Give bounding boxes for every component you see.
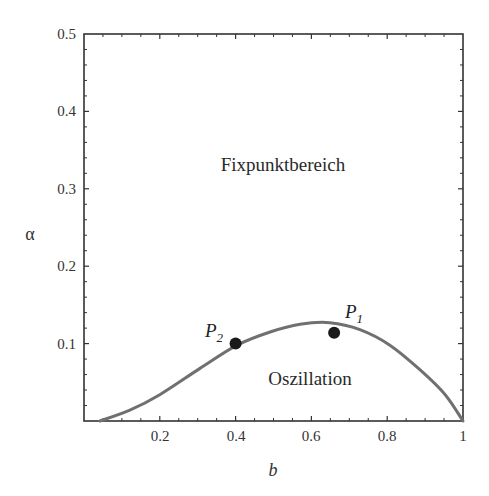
region-label-oscillation: Oszillation: [268, 368, 352, 389]
x-tick-0.4: 0.4: [227, 428, 246, 444]
point-p1-label: P1: [344, 301, 363, 326]
x-tick-0.8: 0.8: [378, 428, 397, 444]
x-tick-0.2: 0.2: [151, 428, 170, 444]
y-tick-0.5: 0.5: [57, 26, 76, 42]
minor-ticks: [84, 34, 463, 421]
x-tick-0.6: 0.6: [302, 428, 321, 444]
chart: 0.1 0.2 0.3 0.4 0.5 0.2 0.4 0.6 0.8 1 α …: [0, 0, 489, 496]
point-p1-marker: [328, 327, 340, 339]
y-tick-0.2: 0.2: [57, 258, 76, 274]
x-tick-1: 1: [459, 428, 467, 444]
y-tick-0.3: 0.3: [57, 181, 76, 197]
point-p2-marker: [230, 338, 242, 350]
y-axis-title: α: [25, 224, 35, 244]
y-tick-0.4: 0.4: [57, 103, 76, 119]
point-p2-label: P2: [204, 320, 224, 345]
y-tick-0.1: 0.1: [57, 336, 76, 352]
region-label-fixpoint: Fixpunktbereich: [221, 154, 346, 175]
x-axis-title: b: [269, 460, 278, 480]
major-ticks: [84, 34, 463, 421]
plot-frame: [84, 34, 463, 421]
